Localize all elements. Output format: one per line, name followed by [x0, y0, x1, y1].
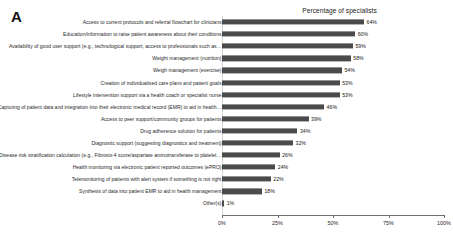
bar-value-label: 1% — [224, 200, 234, 206]
bar-value-label: 59% — [353, 43, 366, 49]
bar — [222, 56, 351, 61]
bar-category-label: Synthesis of data into patient EMR to ai… — [79, 188, 221, 194]
bar-row: Education/information to raise patient a… — [0, 28, 453, 40]
bar-row: Synthesis of data into patient EMR to ai… — [0, 185, 453, 197]
x-axis-tick — [444, 215, 445, 218]
bar-value-label: 18% — [262, 188, 275, 194]
x-axis-tick — [278, 215, 279, 218]
bar-value-label: 58% — [351, 55, 364, 61]
bar-category-label: Other(s) — [203, 200, 222, 206]
bar-track: 22% — [222, 173, 449, 185]
bar-category-label: Disease risk stratification calculation … — [0, 152, 222, 158]
bar-value-label: 60% — [355, 31, 368, 37]
bar-value-label: 24% — [275, 164, 288, 170]
bar — [222, 165, 275, 170]
bar-plot-area: Access to current protocols and referral… — [0, 16, 453, 215]
bar — [222, 19, 364, 24]
bar-category-label: Access to peer support/community groups … — [101, 116, 222, 122]
bar-row: Lifestyle intervention support via a hea… — [0, 89, 453, 101]
chart-title: Percentage of specialists — [226, 7, 453, 14]
bar-value-label: 22% — [271, 176, 284, 182]
bar-track: 46% — [222, 101, 449, 113]
chart-panel: A Percentage of specialists Access to cu… — [0, 0, 453, 242]
x-axis-tick-label: 100% — [437, 220, 451, 226]
bar-category-label: Diagnostic support (suggesting diagnosti… — [91, 140, 221, 146]
bar — [222, 177, 271, 182]
bar-category-label: Education/information to raise patient a… — [63, 31, 221, 37]
bar — [222, 32, 355, 37]
bar-row: Weight management (nutrition)58% — [0, 52, 453, 64]
x-axis-tick — [389, 215, 390, 218]
bar-track: 39% — [222, 113, 449, 125]
bar-track: 64% — [222, 16, 449, 28]
bar — [222, 116, 309, 121]
bar-track: 54% — [222, 64, 449, 76]
bar-track: 59% — [222, 40, 449, 52]
bar-value-label: 54% — [342, 67, 355, 73]
bar-row: Creation of individualised care plans an… — [0, 76, 453, 88]
bar-track: 53% — [222, 89, 449, 101]
bar-row: Access to current protocols and referral… — [0, 16, 453, 28]
bar — [222, 189, 262, 194]
bar-value-label: 32% — [293, 140, 306, 146]
bar-value-label: 53% — [340, 80, 353, 86]
bar-row: Disease risk stratification calculation … — [0, 149, 453, 161]
bar-track: 34% — [222, 125, 449, 137]
bar — [222, 140, 293, 145]
bar — [222, 80, 340, 85]
x-axis-tick — [222, 215, 223, 218]
bar-value-label: 26% — [280, 152, 293, 158]
bar-category-label: Access to current protocols and referral… — [83, 19, 222, 25]
bar-value-label: 39% — [309, 116, 322, 122]
x-axis-tick-label: 50% — [328, 220, 339, 226]
bar — [222, 152, 280, 157]
bar — [222, 68, 342, 73]
bar-track: 24% — [222, 161, 449, 173]
bar-track: 26% — [222, 149, 449, 161]
x-axis-tick — [333, 215, 334, 218]
bar-value-label: 34% — [297, 128, 310, 134]
bar-category-label: Lifestyle intervention support via a hea… — [73, 92, 221, 98]
bar — [222, 104, 324, 109]
bar-value-label: 53% — [340, 92, 353, 98]
bar-row: Access to peer support/community groups … — [0, 113, 453, 125]
bar — [222, 92, 340, 97]
bar-category-label: Drug adherence solution for patients — [140, 128, 221, 134]
bar-track: 18% — [222, 185, 449, 197]
bar — [222, 44, 353, 49]
bar-track: 58% — [222, 52, 449, 64]
bar-row: Drug adherence solution for patients34% — [0, 125, 453, 137]
bar-row: Other(s)1% — [0, 197, 453, 209]
bar-category-label: Weigh management (exercise) — [153, 67, 222, 73]
bar-row: Diagnostic support (suggesting diagnosti… — [0, 137, 453, 149]
x-axis-tick-label: 0% — [218, 220, 226, 226]
bar-category-label: Weight management (nutrition) — [152, 55, 221, 61]
bar-row: Telemonitoring of patients with alert sy… — [0, 173, 453, 185]
bar-category-label: Health monitoring via electronic patient… — [73, 164, 222, 170]
bar-category-label: Creation of individualised care plans an… — [101, 80, 222, 86]
bar-value-label: 64% — [364, 19, 377, 25]
bar-track: 60% — [222, 28, 449, 40]
bar-value-label: 46% — [324, 104, 337, 110]
bar-category-label: Capturing of patient data and integratio… — [0, 104, 222, 110]
bar-track: 32% — [222, 137, 449, 149]
bar-category-label: Telemonitoring of patients with alert sy… — [72, 176, 222, 182]
bar-row: Capturing of patient data and integratio… — [0, 101, 453, 113]
bar-track: 1% — [222, 197, 449, 209]
bar-row: Availability of good user support (e.g.,… — [0, 40, 453, 52]
bar-track: 53% — [222, 76, 449, 88]
x-axis-tick-label: 25% — [272, 220, 283, 226]
bar — [222, 128, 297, 133]
bar-row: Health monitoring via electronic patient… — [0, 161, 453, 173]
x-axis-tick-label: 75% — [383, 220, 394, 226]
bar-category-label: Availability of good user support (e.g.,… — [9, 43, 222, 49]
bar-row: Weigh management (exercise)54% — [0, 64, 453, 76]
